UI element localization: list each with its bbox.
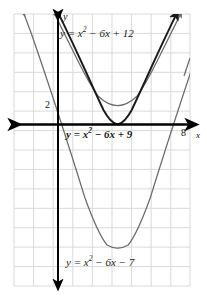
eq-bot-rest: − 6x − 7 <box>95 256 134 268</box>
y-axis-tick-label-2: 2 <box>45 100 50 110</box>
eq-top-equals: = <box>68 27 75 39</box>
eq-mid-exponent: 2 <box>88 126 92 135</box>
eq-top-lhs: y <box>60 27 65 39</box>
eq-mid-equals: = <box>74 128 80 140</box>
eq-top-rest: − 6x + 12 <box>89 27 133 39</box>
equation-label-top: y = x2 − 6x + 12 <box>60 26 134 39</box>
eq-bot-exponent: 2 <box>89 254 93 263</box>
eq-mid-lhs: y <box>66 128 71 140</box>
eq-bot-lhs: y <box>66 256 71 268</box>
eq-bot-equals: = <box>74 256 81 268</box>
x-axis-tick-label-8: 8 <box>181 128 186 138</box>
equation-label-middle: y = x2 − 6x + 9 <box>66 127 132 140</box>
x-axis-label: x <box>196 131 200 140</box>
eq-mid-rest: − 6x + 9 <box>95 128 133 140</box>
eq-top-exponent: 2 <box>83 25 87 34</box>
grid-lines <box>14 14 190 286</box>
parabolas-figure: y x 2 8 y = x2 − 6x + 12 y = x2 − 6x + 9… <box>0 0 207 300</box>
y-axis-label: y <box>63 12 67 22</box>
equation-label-bottom: y = x2 − 6x − 7 <box>66 255 134 268</box>
